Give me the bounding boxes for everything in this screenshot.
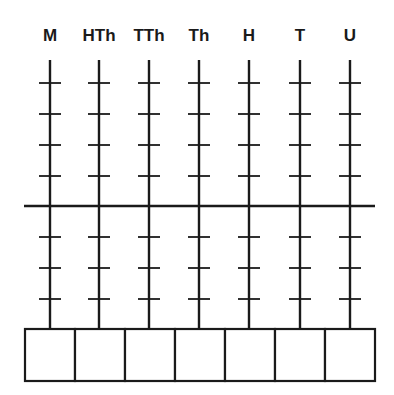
rod-Th [188, 60, 210, 329]
answer-box-T [275, 329, 325, 381]
answer-box-HTh [75, 329, 125, 381]
rod-TTh [138, 60, 160, 329]
rod-H [238, 60, 260, 329]
rod-M [39, 60, 61, 329]
abacus-frame [0, 0, 394, 395]
rod-T [289, 60, 311, 329]
rod-U [339, 60, 361, 329]
rod-HTh [88, 60, 110, 329]
answer-box-Th [175, 329, 225, 381]
answer-box-TTh [125, 329, 175, 381]
answer-box-U [325, 329, 375, 381]
answer-box-M [25, 329, 75, 381]
answer-box-H [225, 329, 275, 381]
